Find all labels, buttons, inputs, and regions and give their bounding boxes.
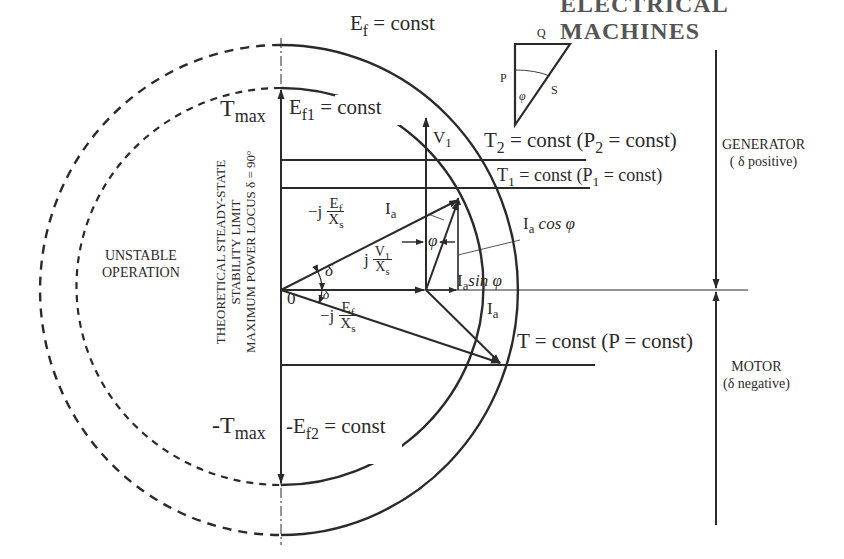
stability-line-2: STABILITY LIMIT <box>228 122 243 382</box>
ia-upper-sub: a <box>391 207 397 221</box>
inner-circle-label: Ef1 = const <box>289 97 382 118</box>
outer-circle-label-main: E <box>350 11 363 35</box>
t-label: T = const (P = const) <box>517 331 693 352</box>
v1-main: V <box>433 128 445 147</box>
inner-circle-label-sub: f1 <box>302 106 315 123</box>
tmax-label: Tmax <box>220 96 266 120</box>
t2-label: T2 = const (P2 = const) <box>484 130 677 151</box>
ia-cos-label: Ia cos φ <box>523 215 575 232</box>
jv1-j: j <box>364 250 369 269</box>
ia-upper-label: Ia <box>385 200 396 217</box>
inner-circle-label-rest: = const <box>315 95 382 119</box>
t1-main: T <box>497 165 508 185</box>
stability-limit-text: THEORETICAL STEADY-STATE STABILITY LIMIT… <box>213 122 258 382</box>
neg-tmax-sub: max <box>235 423 266 443</box>
stability-line-3: MAXIMUM POWER LOCUS δ = 90º <box>243 122 258 382</box>
generator-note: ( δ positive) <box>722 153 805 170</box>
xs-upper-den: X <box>328 211 339 227</box>
ia-cos-rest: cos φ <box>534 214 575 233</box>
v1-label: V1 <box>433 129 452 146</box>
neg-circle-label: -Ef2 = const <box>286 416 386 437</box>
ef-xs-lower-fraction: Ef Xs <box>338 300 357 331</box>
origin-label: 0 <box>287 290 296 307</box>
neg-tmax-label: -Tmax <box>212 413 266 437</box>
t2-main: T <box>484 128 497 152</box>
ia-leader <box>428 214 444 220</box>
t2-end: = const) <box>603 128 677 152</box>
jv1-xs-label: j V1 Xs <box>364 245 392 274</box>
jv1-xs-fraction: V1 Xs <box>373 245 392 274</box>
neg-circle-label-main: -E <box>286 414 306 438</box>
ia-sin-rest: sin φ <box>468 271 502 290</box>
generator-text: GENERATOR <box>722 136 805 153</box>
unstable-operation-label: UNSTABLE OPERATION <box>102 247 180 281</box>
motor-text: MOTOR <box>723 358 790 375</box>
motor-note: (δ negative) <box>723 375 790 392</box>
unstable-line-2: OPERATION <box>102 264 180 281</box>
neg-tmax-main: -T <box>212 412 235 438</box>
ef-xs-upper-fraction: Ef Xs <box>326 196 345 227</box>
motor-label: MOTOR (δ negative) <box>723 358 790 392</box>
ef-lower-num: E <box>341 299 350 315</box>
power-triangle-q: Q <box>537 27 546 39</box>
xs-upper-den-sub: s <box>339 218 343 230</box>
tmax-main: T <box>220 95 235 121</box>
neg-circle-label-sub: f2 <box>306 425 319 442</box>
ia-sin-label: Iasin φ <box>457 272 502 289</box>
generator-label: GENERATOR ( δ positive) <box>722 136 805 170</box>
ef-xs-lower-label: −j Ef Xs <box>320 300 358 331</box>
unstable-line-1: UNSTABLE <box>102 247 180 264</box>
xs-mid-den-sub: s <box>385 266 389 277</box>
power-triangle-angle-arc <box>515 70 550 76</box>
t1-label: T1 = const (P1 = const) <box>497 166 662 184</box>
outer-circle-label-rest: = const <box>368 11 435 35</box>
power-triangle-s: S <box>551 84 558 96</box>
xs-mid-den: X <box>375 259 385 274</box>
t2-sub2: 2 <box>595 139 603 156</box>
t1-end: = const) <box>599 165 662 185</box>
xs-lower-den: X <box>340 315 351 331</box>
ef-upper-num: E <box>329 195 338 211</box>
ef-xs-upper-label: −j Ef Xs <box>308 196 346 227</box>
ia-lower-label: Ia <box>487 300 498 317</box>
t1-mid: = const (P <box>515 165 593 185</box>
t2-sub: 2 <box>497 139 505 156</box>
t1-sub: 1 <box>508 174 515 189</box>
outer-circle-label: Ef = const <box>350 13 435 34</box>
stability-line-1: THEORETICAL STEADY-STATE <box>213 122 228 382</box>
t2-mid: = const (P <box>505 128 596 152</box>
neg-circle-label-rest: = const <box>319 414 386 438</box>
power-triangle <box>515 44 570 125</box>
v1-num: V <box>375 244 385 259</box>
power-triangle-phi: φ <box>519 90 526 102</box>
ef-xs-lower-vector <box>281 290 500 363</box>
v1-sub: 1 <box>445 136 451 150</box>
xs-lower-den-sub: s <box>351 322 355 334</box>
ef-xs-lower-negj: −j <box>320 306 334 325</box>
power-triangle-p: P <box>500 72 507 84</box>
ia-cos-leader <box>458 240 520 255</box>
ia-lower-sub: a <box>493 307 499 321</box>
ef-xs-upper-negj: −j <box>308 202 322 221</box>
phi-label: φ <box>428 232 437 249</box>
inner-circle-label-main: E <box>289 95 302 119</box>
delta-label: δ <box>325 262 333 279</box>
